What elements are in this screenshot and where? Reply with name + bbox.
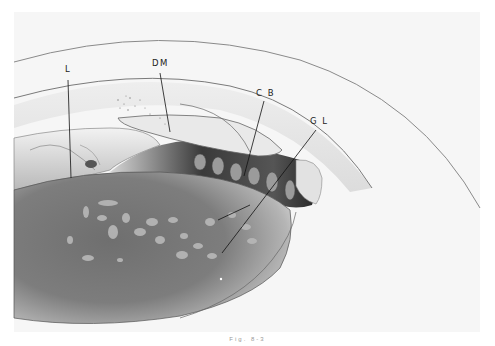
- label-lens: L: [65, 64, 71, 74]
- iris-crypt: [85, 160, 97, 168]
- figure-caption: Fig. 8-3: [0, 336, 495, 342]
- label-glistening: G L: [310, 116, 329, 126]
- lens-highlight: [220, 278, 222, 280]
- label-descemet-membrane: DM: [152, 58, 169, 68]
- eye-angle-illustration: L DM C B G L: [0, 0, 495, 346]
- label-ciliary-body: C B: [256, 88, 275, 98]
